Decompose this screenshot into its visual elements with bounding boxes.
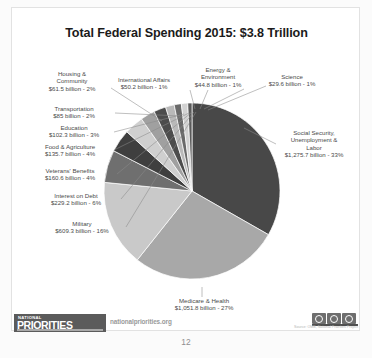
chart-card: Total Federal Spending 2015: $3.8 Trilli… bbox=[11, 7, 360, 331]
national-priorities-logo: NATIONAL PRIORITIES bbox=[14, 314, 106, 332]
label-interest-on-debt: Interest on Debt $229.2 billion - 6% bbox=[32, 192, 120, 207]
label-international-affairs: International Affairs $50.2 billion - 1% bbox=[98, 76, 190, 91]
label-science: Science $29.6 billion - 1% bbox=[252, 73, 332, 88]
logo-underline bbox=[17, 329, 103, 331]
source-attribution: Source: OMB, National Priorities Project bbox=[294, 325, 358, 329]
page-number: 12 bbox=[0, 337, 372, 347]
cc-sa-icon bbox=[342, 313, 356, 324]
cc-icon bbox=[312, 313, 326, 324]
website-url[interactable]: nationalpriorities.org bbox=[110, 318, 172, 325]
label-veterans-benefits: Veterans' Benefits $160.6 billion - 4% bbox=[26, 167, 114, 182]
label-transportation: Transportation $85 billion - 2% bbox=[34, 105, 114, 120]
label-military: Military $609.3 billion - 16% bbox=[38, 220, 126, 235]
label-education: Education $102.3 billion - 3% bbox=[34, 124, 114, 139]
pie-slices bbox=[104, 103, 280, 279]
label-social-security: Social Security, Unemployment & Labor $1… bbox=[270, 129, 358, 159]
document-page: Total Federal Spending 2015: $3.8 Trilli… bbox=[0, 0, 372, 358]
pie-chart: Housing & Community $61.5 billion - 2% T… bbox=[12, 8, 361, 332]
creative-commons-badge bbox=[312, 313, 358, 324]
label-medicare-health: Medicare & Health $1,051.8 billion - 27% bbox=[150, 297, 258, 312]
label-energy-environment: Energy & Environment $44.8 billion - 1% bbox=[180, 66, 256, 88]
chart-footer: NATIONAL PRIORITIES nationalpriorities.o… bbox=[11, 313, 360, 333]
label-food-agriculture: Food & Agriculture $135.7 billion - 4% bbox=[26, 143, 114, 158]
cc-by-icon bbox=[327, 313, 341, 324]
